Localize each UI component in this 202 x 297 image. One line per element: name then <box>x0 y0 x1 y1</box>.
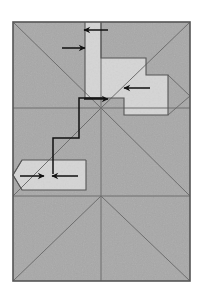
fold-diagram <box>0 0 202 297</box>
diagram-canvas: Fabric fold diagram Quilting / origami s… <box>0 0 202 297</box>
